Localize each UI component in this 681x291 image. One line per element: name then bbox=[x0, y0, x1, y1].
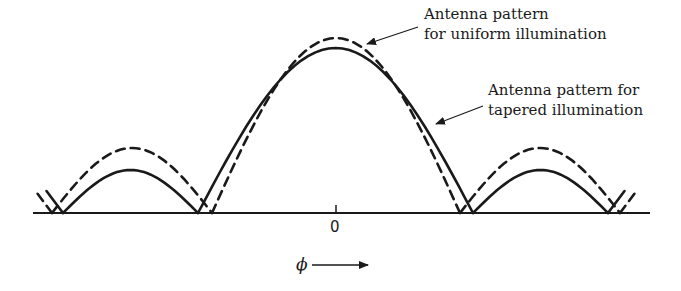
tapered-label-line1: Antenna pattern for bbox=[488, 80, 643, 100]
zero-tick-label: 0 bbox=[330, 218, 340, 236]
tapered-label-line2: tapered illumination bbox=[488, 100, 643, 120]
uniform-illumination-label: Antenna pattern for uniform illumination bbox=[424, 4, 607, 44]
tapered-main-lobe bbox=[198, 48, 473, 213]
tapered-side-lobe bbox=[473, 170, 608, 213]
uniform-label-line2: for uniform illumination bbox=[424, 24, 607, 44]
uniform-label-line1: Antenna pattern bbox=[424, 4, 607, 24]
tapered-leader-arrow bbox=[436, 106, 483, 124]
uniform-leader-arrow bbox=[367, 27, 418, 44]
phi-axis-label: ϕ bbox=[296, 254, 308, 274]
pattern-curves bbox=[37, 38, 635, 213]
tapered-illumination-label: Antenna pattern for tapered illumination bbox=[488, 80, 643, 120]
